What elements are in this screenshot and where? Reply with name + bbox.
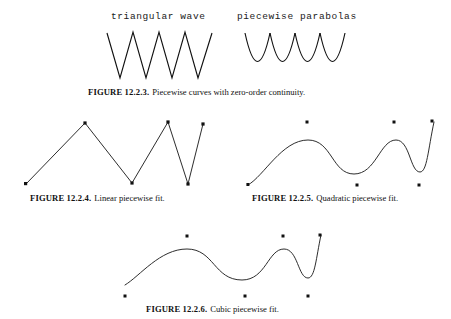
quadratic-piecewise-fit-plot: [242, 114, 440, 192]
caption-head-12-2-5: FIGURE 12.2.5.: [252, 193, 313, 203]
caption-text-12-2-5: Quadratic piecewise fit.: [316, 193, 398, 203]
piecewise-parabolas-label: piecewise parabolas: [237, 11, 357, 22]
parabola-arc-3: [295, 33, 320, 62]
caption-figure-12-2-6: FIGURE 12.2.6.Cubic piecewise fit.: [146, 305, 279, 314]
parabola-arc-1: [245, 33, 270, 62]
control-point-marker: [307, 295, 310, 298]
control-point-marker: [246, 183, 249, 186]
data-point-marker: [166, 120, 169, 123]
data-point-marker: [24, 182, 27, 185]
control-point-marker: [306, 121, 309, 124]
data-point-marker: [83, 121, 86, 124]
caption-head-12-2-6: FIGURE 12.2.6.: [146, 304, 207, 314]
cubic-piecewise-curve: [125, 235, 321, 285]
data-point-marker: [201, 122, 204, 125]
control-point-marker: [186, 235, 189, 238]
triangular-wave-plot: [100, 28, 220, 84]
control-point-markers: [124, 234, 322, 298]
data-point-marker: [186, 182, 189, 185]
caption-text-12-2-3: Piecewise curves with zero-order continu…: [152, 87, 305, 97]
piecewise-parabolas-plot: [240, 28, 352, 84]
control-point-marker: [431, 120, 434, 123]
control-point-marker: [124, 295, 127, 298]
data-point-marker: [130, 181, 133, 184]
control-point-marker: [356, 184, 359, 187]
caption-text-12-2-4: Linear piecewise fit.: [94, 193, 164, 203]
control-point-marker: [244, 295, 247, 298]
parabola-arc-4: [320, 33, 345, 62]
caption-figure-12-2-4: FIGURE 12.2.4.Linear piecewise fit.: [30, 194, 165, 203]
control-point-marker: [393, 121, 396, 124]
triangular-wave-label: triangular wave: [111, 11, 206, 22]
cubic-piecewise-fit-plot: [118, 230, 328, 304]
caption-head-12-2-3: FIGURE 12.2.3.: [88, 87, 149, 97]
control-point-marker: [418, 184, 421, 187]
caption-figure-12-2-3: FIGURE 12.2.3.Piecewise curves with zero…: [88, 88, 305, 97]
parabola-arc-2: [270, 33, 295, 62]
triangular-wave-curve: [107, 32, 212, 78]
caption-figure-12-2-5: FIGURE 12.2.5.Quadratic piecewise fit.: [252, 194, 398, 203]
control-point-marker: [319, 234, 322, 237]
figure-page: triangular wave piecewise parabolas FIGU…: [0, 0, 451, 319]
caption-head-12-2-4: FIGURE 12.2.4.: [30, 193, 91, 203]
control-point-marker: [282, 235, 285, 238]
control-point-markers: [246, 120, 433, 187]
quadratic-piecewise-curve: [248, 122, 434, 185]
linear-piecewise-curve: [26, 122, 203, 184]
linear-piecewise-fit-plot: [18, 114, 213, 192]
caption-text-12-2-6: Cubic piecewise fit.: [210, 304, 279, 314]
